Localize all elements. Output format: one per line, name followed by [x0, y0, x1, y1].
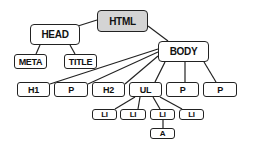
edge-html-body [148, 26, 168, 41]
node-h2: H2 [92, 82, 125, 97]
node-meta: META [14, 54, 47, 69]
node-li: LI [92, 109, 117, 120]
node-li: LI [179, 109, 204, 120]
node-h1: H1 [17, 82, 50, 97]
node-li: LI [120, 109, 146, 120]
node-a: A [150, 128, 175, 139]
node-p: P [54, 82, 88, 97]
node-html: HTML [97, 10, 148, 32]
edge-body-p3 [204, 62, 216, 82]
node-head: HEAD [30, 24, 80, 45]
node-body: BODY [158, 41, 209, 62]
node-ul: UL [129, 82, 162, 97]
node-p: P [166, 82, 199, 97]
edge-ul-li1 [115, 97, 135, 109]
edge-html-head [78, 20, 97, 26]
edge-head-meta [36, 45, 40, 54]
dom-tree-diagram: HTML HEAD BODY META TITLE H1 P H2 UL P P… [0, 0, 253, 149]
edge-head-title [70, 45, 75, 54]
edge-ul-li3 [153, 97, 160, 109]
node-li: LI [150, 109, 175, 120]
node-p: P [203, 82, 237, 97]
node-title: TITLE [64, 54, 97, 69]
edge-ul-li4 [160, 97, 182, 109]
edge-body-ul [155, 62, 165, 82]
edge-ul-li2 [138, 97, 140, 109]
